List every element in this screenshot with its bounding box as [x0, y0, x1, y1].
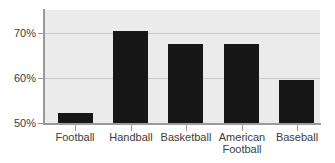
x-axis-line [43, 123, 321, 125]
bar-basketball [168, 44, 203, 124]
x-label-baseball: Baseball [262, 131, 332, 143]
y-tick-50 [38, 123, 44, 124]
bar-handball [113, 31, 148, 124]
plot-area [44, 10, 320, 124]
y-tick-label-60: 60% [0, 73, 36, 84]
bar-chart: 70% 60% 50% Football Handball Basketball… [0, 0, 335, 163]
y-tick-label-70: 70% [0, 28, 36, 39]
gridline-70 [44, 33, 320, 34]
bar-american-football [224, 44, 259, 124]
y-tick-70 [38, 33, 44, 34]
y-tick-label-50: 50% [0, 118, 36, 129]
y-tick-60 [38, 78, 44, 79]
bar-baseball [279, 80, 314, 124]
y-axis-line [43, 9, 45, 125]
